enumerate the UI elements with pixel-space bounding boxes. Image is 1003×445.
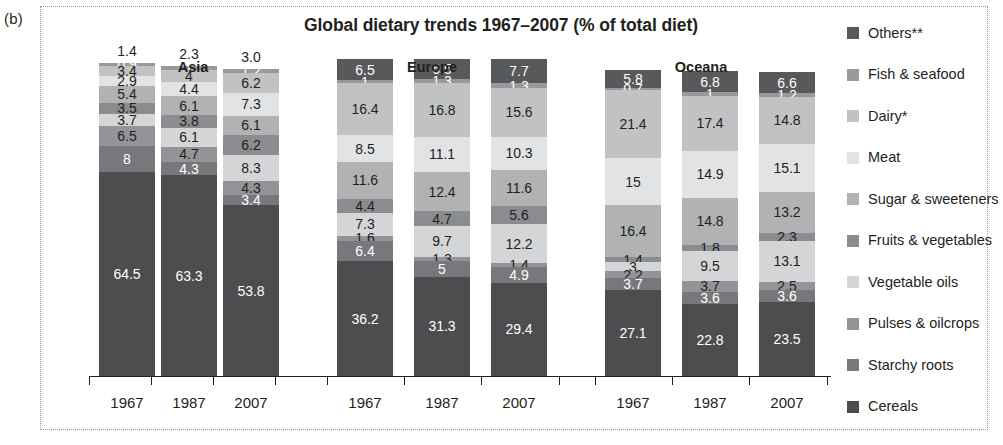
bar-segment-value: 3.8	[179, 114, 198, 128]
bar-segment[interactable]: 5.6	[491, 206, 547, 224]
stacked-bar[interactable]: 6.51.316.811.112.44.79.71.3531.3	[414, 59, 470, 376]
legend-item[interactable]: Fruits & vegetables	[847, 233, 992, 249]
bar-segment[interactable]: 63.3	[161, 175, 217, 376]
bar-segment[interactable]: 6.5	[99, 126, 155, 147]
legend-swatch-icon	[847, 276, 859, 288]
x-axis-year-label: 1987	[154, 394, 224, 411]
stacked-bar[interactable]: 1.40.93.42.95.43.53.76.5864.5	[99, 63, 155, 376]
bar-segment-value: 4.4	[179, 82, 198, 96]
bar-segment[interactable]: 64.5	[99, 172, 155, 376]
bar-segment[interactable]: 6.4	[337, 241, 393, 261]
bar-segment-value: 9.7	[432, 234, 451, 248]
bar-segment[interactable]: 5	[414, 261, 470, 277]
bar-segment[interactable]: 14.9	[682, 151, 738, 198]
bar-segment[interactable]: 36.2	[337, 261, 393, 376]
bar-segment[interactable]: 22.8	[682, 304, 738, 376]
bar-segment[interactable]: 2.9	[99, 76, 155, 85]
legend-item[interactable]: Cereals	[847, 399, 918, 415]
bar-segment[interactable]: 2.3	[759, 233, 815, 240]
stacked-bar[interactable]: 5.80.721.41516.41.432.23.727.1	[605, 70, 661, 376]
bar-segment[interactable]: 15.1	[759, 144, 815, 192]
bar-segment[interactable]: 3.6	[682, 292, 738, 303]
group-title-oceana: Oceana	[641, 59, 761, 75]
legend-item[interactable]: Dairy*	[847, 108, 907, 124]
bar-segment[interactable]: 16.4	[605, 205, 661, 257]
stacked-bar[interactable]: 7.71.315.610.311.65.612.21.44.929.4	[491, 59, 547, 376]
x-axis-year-label: 2007	[752, 394, 822, 411]
bar-segment[interactable]: 15.6	[491, 88, 547, 137]
bar-segment[interactable]: 11.1	[414, 137, 470, 172]
axis-tick	[827, 376, 828, 385]
bar-segment[interactable]: 53.8	[223, 205, 279, 376]
legend-item[interactable]: Fish & seafood	[847, 67, 965, 83]
legend-item[interactable]: Vegetable oils	[847, 274, 958, 290]
bar-segment[interactable]: 15	[605, 158, 661, 206]
bar-segment-value: 11.6	[352, 173, 378, 187]
legend-item[interactable]: Pulses & oilcrops	[847, 316, 979, 332]
axis-tick	[213, 376, 214, 385]
stacked-bar[interactable]: 6.5116.48.511.64.47.31.66.436.2	[337, 59, 393, 376]
bar-segment[interactable]: 16.4	[337, 83, 393, 135]
x-axis-year-label: 1987	[407, 394, 477, 411]
bar-segment-value: 4.4	[355, 199, 374, 213]
x-axis-year-label: 2007	[484, 394, 554, 411]
bar-segment[interactable]: 14.8	[682, 198, 738, 245]
bar-segment[interactable]: 12.4	[414, 172, 470, 211]
bar-segment[interactable]: 6.1	[161, 128, 217, 147]
axis-tick	[595, 376, 596, 385]
bar-segment[interactable]: 6.2	[223, 73, 279, 93]
bar-segment[interactable]: 8.5	[337, 135, 393, 162]
bar-segment[interactable]: 3.4	[223, 195, 279, 206]
bar-segment[interactable]: 10.3	[491, 137, 547, 170]
stacked-bar[interactable]: 6.8117.414.914.81.89.53.73.622.8	[682, 71, 738, 376]
x-axis-year-label: 1967	[330, 394, 400, 411]
bar-segment-value: 8.5	[355, 142, 374, 156]
bar-segment[interactable]: 8.3	[223, 155, 279, 181]
legend-item[interactable]: Meat	[847, 150, 900, 166]
bar-segment-value: 15.6	[505, 105, 532, 119]
legend-item[interactable]: Starchy roots	[847, 357, 953, 373]
bar-segment[interactable]: 6.1	[223, 116, 279, 135]
bar-segment[interactable]: 23.5	[759, 302, 815, 376]
bar-segment[interactable]: 3.6	[759, 290, 815, 301]
bar-segment-value: 8	[123, 152, 131, 166]
bar-segment[interactable]: 29.4	[491, 283, 547, 376]
bar-segment-value: 12.4	[428, 185, 455, 199]
axis-tick	[275, 376, 276, 385]
bar-segment[interactable]: 3.7	[605, 278, 661, 290]
bar-segment[interactable]: 9.5	[682, 251, 738, 281]
bar-segment[interactable]: 4.9	[491, 267, 547, 283]
bar-segment-value: 11.1	[429, 147, 455, 161]
bar-segment[interactable]: 16.8	[414, 83, 470, 136]
bar-segment-value: 16.4	[619, 224, 646, 238]
bar-segment[interactable]: 8	[99, 146, 155, 171]
bar-segment-value: 4.9	[509, 268, 528, 282]
legend-label: Starchy roots	[868, 358, 953, 373]
bar-segment[interactable]: 31.3	[414, 277, 470, 376]
bar-segment-value: 17.4	[696, 116, 723, 130]
stacked-bar[interactable]: 3.01.26.27.36.16.28.34.33.453.8	[223, 69, 279, 376]
bar-segment[interactable]: 3.7	[99, 114, 155, 126]
bar-segment[interactable]: 4.7	[414, 211, 470, 226]
legend-item[interactable]: Sugar & sweeteners	[847, 191, 999, 207]
bar-segment[interactable]: 13.1	[759, 241, 815, 283]
stacked-bar[interactable]: 2.3144.46.13.86.14.74.363.3	[161, 66, 217, 376]
bar-segment[interactable]: 21.4	[605, 90, 661, 158]
bar-segment[interactable]: 27.1	[605, 290, 661, 376]
legend-item[interactable]: Others**	[847, 25, 923, 41]
bar-segment[interactable]: 3.8	[161, 115, 217, 127]
bar-segment[interactable]: 4.4	[161, 82, 217, 96]
bar-segment[interactable]: 4.7	[161, 147, 217, 162]
stacked-bar[interactable]: 6.61.214.815.113.22.313.12.53.623.5	[759, 72, 815, 376]
bar-segment[interactable]: 11.6	[491, 170, 547, 207]
bar-segment[interactable]: 11.6	[337, 162, 393, 199]
bar-segment[interactable]: 4.4	[337, 199, 393, 213]
bar-segment[interactable]: 7.3	[223, 93, 279, 116]
figure-frame: Global dietary trends 1967–2007 (% of to…	[40, 6, 988, 430]
bar-segment[interactable]: 6.2	[223, 135, 279, 155]
bar-segment[interactable]: 17.4	[682, 96, 738, 151]
bar-segment-value: 5.6	[509, 208, 528, 222]
bar-segment[interactable]: 14.8	[759, 97, 815, 144]
bar-segment[interactable]: 13.2	[759, 192, 815, 234]
bar-segment[interactable]: 4.3	[161, 162, 217, 176]
